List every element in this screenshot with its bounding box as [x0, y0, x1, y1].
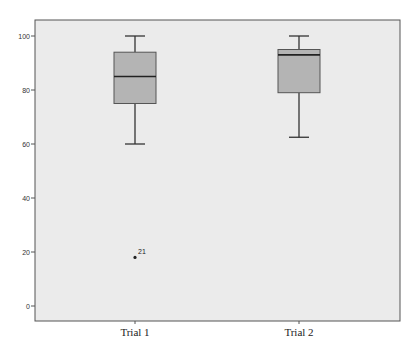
y-tick-label: 60 [22, 141, 30, 148]
y-tick-label: 0 [26, 303, 30, 310]
iqr-box [114, 52, 156, 103]
y-tick-label: 80 [22, 87, 30, 94]
x-axis: Trial 1Trial 2 [120, 321, 313, 338]
box-plot-chart: 020406080100 21 Trial 1Trial 2 [0, 0, 418, 352]
plot-area [35, 20, 400, 321]
y-tick-label: 100 [18, 33, 30, 40]
outlier-label: 21 [138, 248, 146, 255]
y-axis: 020406080100 [18, 33, 35, 310]
y-tick-label: 20 [22, 249, 30, 256]
y-tick-label: 40 [22, 195, 30, 202]
x-category-label: Trial 1 [120, 326, 149, 338]
iqr-box [278, 50, 320, 93]
x-category-label: Trial 2 [284, 326, 313, 338]
outlier-point [133, 256, 136, 259]
